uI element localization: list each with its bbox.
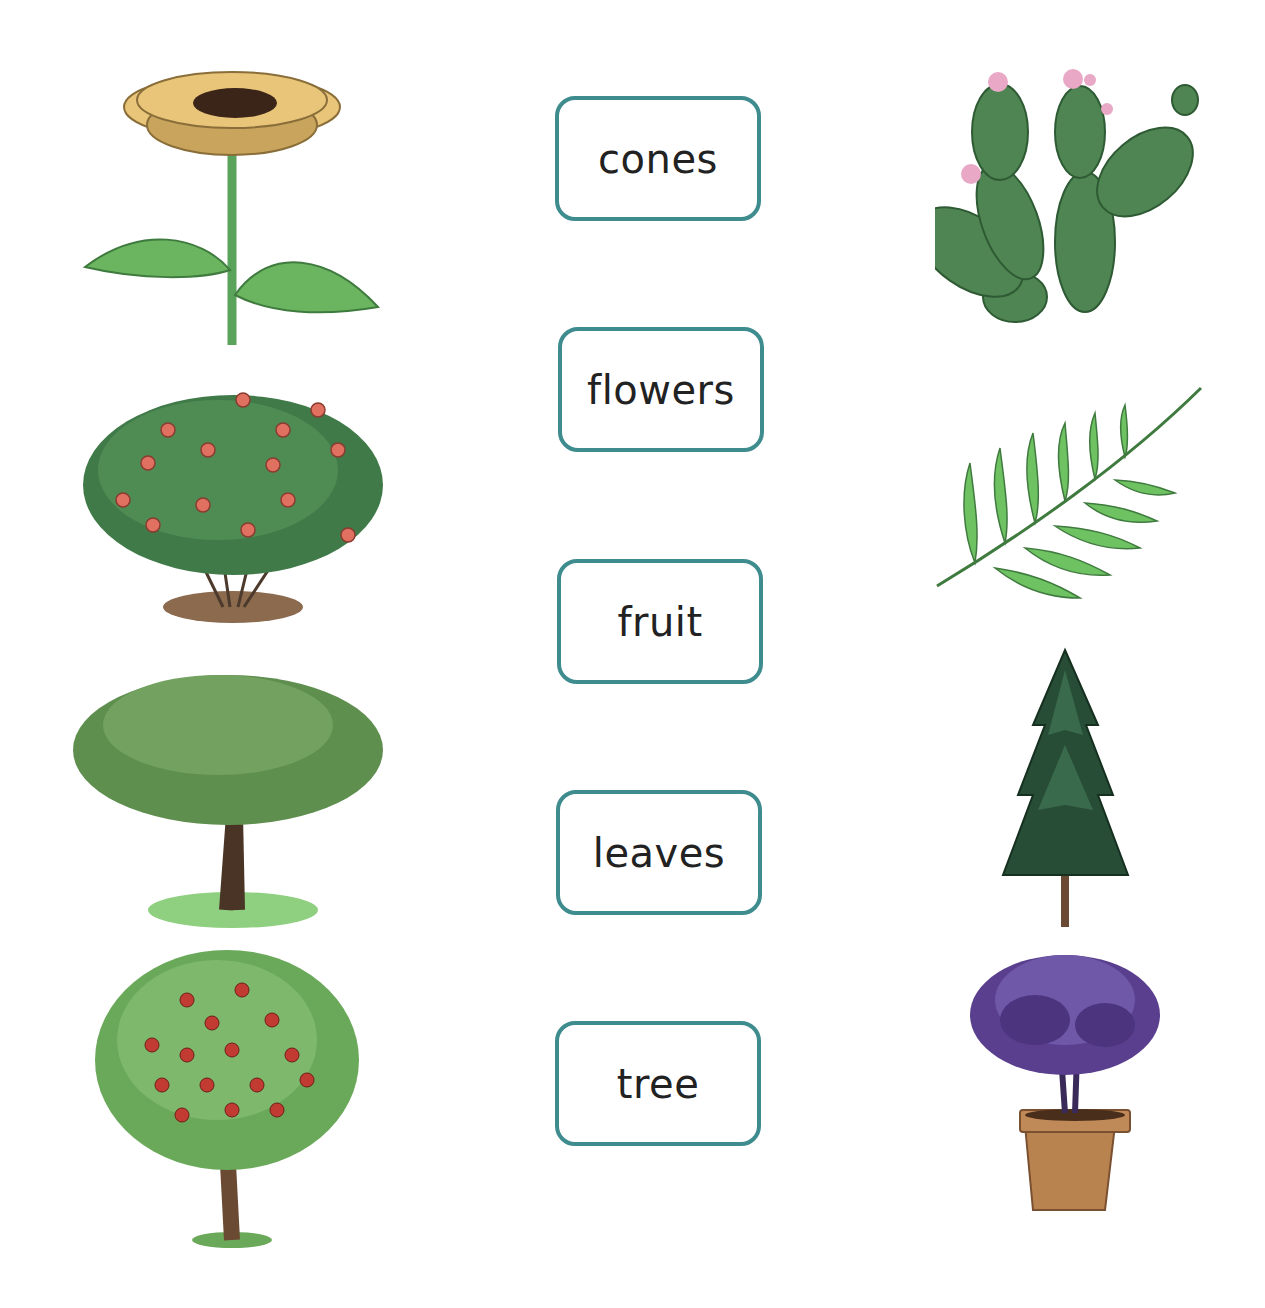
word-box-cones[interactable]: cones <box>555 96 761 221</box>
word-label: flowers <box>587 367 735 413</box>
potted-plant-image[interactable] <box>965 945 1165 1225</box>
leafy-tree-image[interactable] <box>68 665 390 935</box>
rose-bush-image[interactable] <box>68 375 390 630</box>
word-label: tree <box>617 1061 699 1107</box>
word-box-flowers[interactable]: flowers <box>558 327 764 452</box>
word-box-tree[interactable]: tree <box>555 1021 761 1146</box>
sunflower-image[interactable] <box>80 55 380 350</box>
word-label: cones <box>598 136 718 182</box>
word-label: leaves <box>593 830 725 876</box>
cactus-image[interactable] <box>935 62 1210 324</box>
word-box-fruit[interactable]: fruit <box>557 559 763 684</box>
fern-image[interactable] <box>935 383 1205 603</box>
pine-tree-image[interactable] <box>998 645 1133 930</box>
apple-tree-image[interactable] <box>92 945 362 1250</box>
word-box-leaves[interactable]: leaves <box>556 790 762 915</box>
word-label: fruit <box>617 599 702 645</box>
